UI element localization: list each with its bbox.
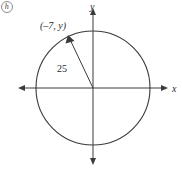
y-axis-label: y — [89, 1, 95, 12]
radius-length-label: 25 — [57, 63, 67, 74]
radius-segment — [71, 41, 94, 89]
x-axis-right-arrow-icon — [161, 85, 168, 91]
point-label: (–7, y) — [40, 20, 67, 32]
y-axis-bottom-arrow-icon — [90, 158, 96, 165]
x-axis-label: x — [171, 83, 177, 94]
figure-root: . h (–7, y) 25 y x — [0, 0, 182, 173]
x-axis-left-arrow-icon — [18, 85, 25, 91]
circle-diagram: (–7, y) 25 y x — [0, 0, 182, 173]
